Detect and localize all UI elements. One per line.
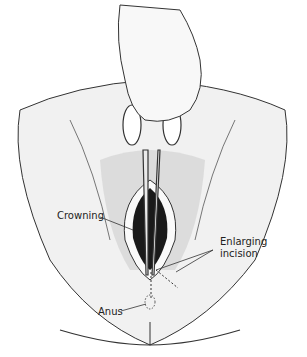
label-enlarging-incision-line2: incision (220, 248, 258, 259)
label-crowning: Crowning (57, 210, 104, 221)
label-enlarging-incision-line1: Enlarging (220, 236, 267, 247)
illustration (0, 0, 307, 357)
label-anus: Anus (98, 306, 123, 317)
